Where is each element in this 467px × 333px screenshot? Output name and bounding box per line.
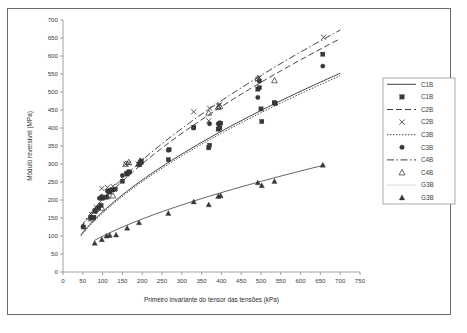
svg-text:0: 0 [61, 277, 65, 284]
svg-text:50: 50 [51, 250, 58, 257]
svg-text:500: 500 [256, 277, 267, 284]
svg-text:650: 650 [48, 34, 59, 41]
svg-text:250: 250 [157, 277, 168, 284]
chart-canvas: 0501001502002503003504004505005506006507… [0, 0, 467, 333]
svg-text:300: 300 [48, 160, 59, 167]
svg-text:750: 750 [355, 277, 366, 284]
axis-titles: Primeiro invariante do tensor das tensõe… [26, 111, 279, 304]
svg-text:550: 550 [48, 70, 59, 77]
plot-series [81, 30, 340, 245]
legend-label-c1b-line: C1B [421, 81, 433, 88]
svg-text:200: 200 [137, 277, 148, 284]
svg-text:300: 300 [177, 277, 188, 284]
svg-text:Módulo reversível (MPa): Módulo reversível (MPa) [26, 111, 34, 181]
legend: C1BC1BC2BC2BC3BC3BC4BC4BG3BG3B [383, 78, 455, 204]
svg-text:400: 400 [48, 124, 59, 131]
svg-text:100: 100 [48, 232, 59, 239]
svg-text:100: 100 [97, 277, 108, 284]
svg-text:500: 500 [48, 88, 59, 95]
svg-text:Primeiro invariante do tensor: Primeiro invariante do tensor das tensõe… [144, 296, 279, 304]
svg-text:150: 150 [117, 277, 128, 284]
svg-text:550: 550 [276, 277, 287, 284]
svg-text:600: 600 [48, 52, 59, 59]
svg-text:700: 700 [335, 277, 346, 284]
legend-label-c4b-line: C4B [421, 156, 433, 163]
svg-text:350: 350 [196, 277, 207, 284]
svg-text:450: 450 [236, 277, 247, 284]
legend-label-c3b-line: C3B [421, 131, 433, 138]
svg-text:250: 250 [48, 178, 59, 185]
legend-label-c2b-line: C2B [421, 106, 433, 113]
legend-label-g3b-line: G3B [421, 181, 434, 188]
svg-text:350: 350 [48, 142, 59, 149]
svg-text:0: 0 [55, 268, 59, 275]
svg-text:200: 200 [48, 196, 59, 203]
legend-label-g3b-marker: G3B [421, 194, 434, 201]
legend-label-c3b-marker: C3B [421, 144, 433, 151]
svg-text:700: 700 [48, 16, 59, 23]
legend-label-c2b-marker: C2B [421, 118, 433, 125]
svg-text:450: 450 [48, 106, 59, 113]
svg-text:400: 400 [216, 277, 227, 284]
legend-label-c1b-marker: C1B [421, 93, 433, 100]
svg-text:650: 650 [315, 277, 326, 284]
legend-label-c4b-marker: C4B [421, 169, 433, 176]
svg-text:150: 150 [48, 214, 59, 221]
svg-text:50: 50 [79, 277, 86, 284]
svg-text:600: 600 [295, 277, 306, 284]
